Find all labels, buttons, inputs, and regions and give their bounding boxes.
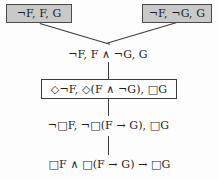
node-leaf-left-label: ¬F, F, G	[17, 8, 62, 19]
proof-tree-diagram: ¬F, F, G ¬F, ¬G, G ¬F, F ∧ ¬G, G ◇¬F, ◇(…	[0, 0, 218, 180]
node-row2-label: ¬F, F ∧ ¬G, G	[68, 49, 148, 60]
edge-row3-to-row2	[108, 62, 109, 79]
edge-row4-to-row3	[108, 99, 109, 116]
node-row5-label: □F ∧ □(F → G) → □G	[49, 159, 171, 170]
node-leaf-right-label: ¬F, ¬G, G	[149, 8, 205, 19]
node-row2: ¬F, F ∧ ¬G, G	[50, 46, 166, 62]
edge-branch-right	[107, 22, 177, 44]
node-leaf-left: ¬F, F, G	[6, 4, 72, 23]
node-row3: ◇¬F, ◇(F ∧ ¬G), □G	[41, 79, 177, 99]
node-row4: ¬□F, ¬□(F → G), □G	[40, 117, 177, 134]
edge-row5-to-row4	[108, 136, 109, 155]
node-row4-label: ¬□F, ¬□(F → G), □G	[48, 120, 169, 131]
node-leaf-right: ¬F, ¬G, G	[142, 4, 212, 23]
edge-branch-left	[40, 23, 110, 45]
node-row5: □F ∧ □(F → G) → □G	[38, 156, 181, 173]
node-row3-label: ◇¬F, ◇(F ∧ ¬G), □G	[51, 84, 167, 95]
